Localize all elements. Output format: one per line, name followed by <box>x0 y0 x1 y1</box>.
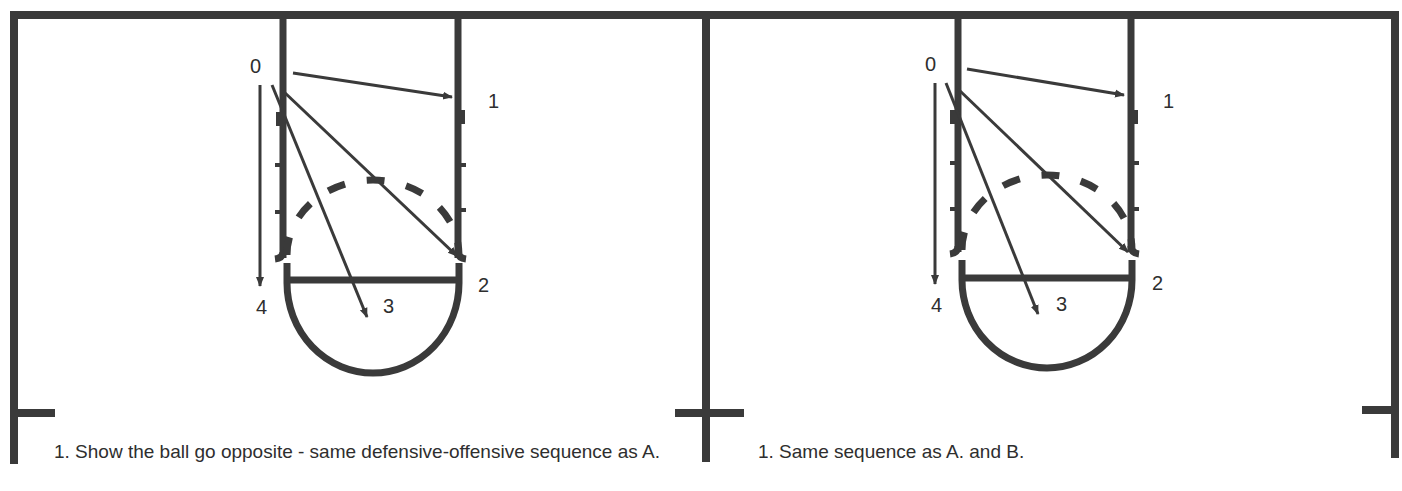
player-label-2: 2 <box>1152 272 1163 294</box>
player-label-4: 4 <box>256 296 267 318</box>
player-label-4: 4 <box>931 294 942 316</box>
right-court <box>935 15 1139 368</box>
key-lane <box>950 15 1139 254</box>
caption-left: 1. Show the ball go opposite - same defe… <box>54 440 674 463</box>
player-label-1: 1 <box>488 90 499 112</box>
player-label-0: 0 <box>925 53 936 75</box>
free-throw-circle <box>285 180 460 373</box>
player-label-3: 3 <box>1056 293 1067 315</box>
player-label-0: 0 <box>250 55 261 77</box>
free-throw-circle <box>960 175 1133 368</box>
player-label-3: 3 <box>383 295 394 317</box>
lane-hash-marks <box>950 110 1139 209</box>
player-label-2: 2 <box>478 274 489 296</box>
left-court <box>260 15 466 373</box>
player-label-1: 1 <box>1163 90 1174 112</box>
caption-right: 1. Same sequence as A. and B. <box>758 440 1318 463</box>
court-frame <box>10 15 1399 464</box>
key-lane <box>275 15 466 259</box>
play-diagram: 0 1 2 3 4 0 1 2 3 4 <box>0 0 1402 491</box>
